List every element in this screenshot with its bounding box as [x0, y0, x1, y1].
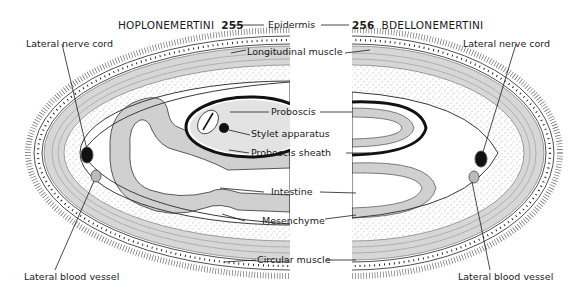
label-stylet-apparatus: Stylet apparatus	[251, 129, 330, 139]
label-intestine: Intestine	[271, 187, 313, 197]
right-panel-name: BDELLONEMERTINI	[382, 19, 484, 31]
label-left-lateral-blood-vessel: Lateral blood vessel	[24, 272, 119, 282]
label-epidermis: Epidermis	[268, 20, 315, 30]
label-proboscis: Proboscis	[271, 107, 316, 117]
right-panel-title: 256 BDELLONEMERTINI	[352, 20, 483, 31]
label-mesenchyme: Mesenchyme	[262, 216, 325, 226]
right-figure-number: 256	[352, 19, 375, 31]
label-circular-muscle: Circular muscle	[257, 255, 331, 265]
label-longitudinal-muscle: Longitudinal muscle	[247, 47, 342, 57]
label-proboscis-sheath: Proboscis sheath	[251, 148, 331, 158]
label-left-lateral-nerve-cord: Lateral nerve cord	[26, 39, 113, 49]
left-panel-name: HOPLONEMERTINI	[118, 19, 214, 31]
label-right-lateral-nerve-cord: Lateral nerve cord	[463, 39, 550, 49]
left-panel-title: HOPLONEMERTINI 255	[118, 20, 244, 31]
left-figure-number: 255	[221, 19, 244, 31]
label-right-lateral-blood-vessel: Lateral blood vessel	[458, 272, 553, 282]
